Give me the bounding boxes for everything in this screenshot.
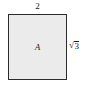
rectangle-shape: A [8, 14, 67, 80]
radicand-value: 3 [74, 41, 80, 51]
region-area-label: A [9, 15, 66, 79]
top-side-dimension-label: 2 [8, 0, 67, 13]
geometry-figure: 2 A √3 [0, 0, 87, 89]
right-side-dimension-label: √3 [69, 40, 79, 53]
square-root-icon: √3 [69, 41, 79, 51]
